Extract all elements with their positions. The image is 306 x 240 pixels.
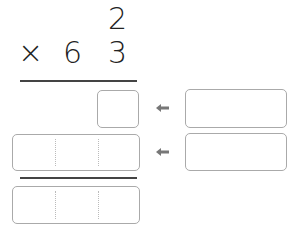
partial-product-1-input[interactable] xyxy=(97,90,139,128)
product-rule-bottom xyxy=(20,177,137,179)
digit-divider xyxy=(55,191,56,219)
arrow-left-icon xyxy=(156,147,170,157)
multiplier-tens-digit: 6 xyxy=(63,38,82,68)
digit-divider xyxy=(98,139,99,166)
helper-input-2[interactable] xyxy=(185,133,287,171)
partial-product-2-input[interactable] xyxy=(12,134,140,171)
helper-input-1[interactable] xyxy=(185,89,287,128)
multiply-operator: × xyxy=(18,38,43,68)
multiplicand-digit: 2 xyxy=(108,4,127,34)
final-product-input[interactable] xyxy=(12,186,140,224)
multiplier-ones-digit: 3 xyxy=(108,38,127,68)
digit-divider xyxy=(55,139,56,166)
digit-divider xyxy=(98,191,99,219)
product-rule-top xyxy=(20,80,137,82)
arrow-left-icon xyxy=(156,103,170,113)
